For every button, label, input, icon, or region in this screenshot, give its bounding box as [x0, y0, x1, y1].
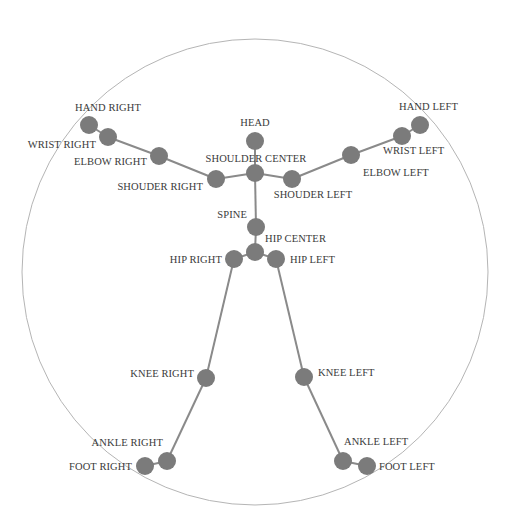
- joint-foot-right: [136, 457, 154, 475]
- joint-label-knee-left: KNEE LEFT: [318, 367, 375, 378]
- joint-spine: [247, 218, 265, 236]
- joint-elbow-right: [150, 147, 168, 165]
- joint-label-foot-left: FOOT LEFT: [379, 461, 435, 472]
- joint-knee-right: [197, 369, 215, 387]
- bone-knee-right-to-ankle-right: [167, 378, 206, 461]
- joint-label-elbow-right: ELBOW RIGHT: [74, 156, 147, 167]
- labels-layer: HEADSHOULDER CENTERSHOUDER RIGHTELBOW RI…: [28, 101, 459, 472]
- bone-hip-left-to-knee-left: [276, 259, 304, 377]
- joint-hip-center: [246, 243, 264, 261]
- joint-label-knee-right: KNEE RIGHT: [130, 368, 194, 379]
- joint-wrist-right: [99, 128, 117, 146]
- joint-shoulder-left: [283, 170, 301, 188]
- joint-label-hand-right: HAND RIGHT: [75, 102, 142, 113]
- joint-label-wrist-right: WRIST RIGHT: [28, 139, 97, 150]
- joint-label-hip-center: HIP CENTER: [265, 233, 326, 244]
- joint-label-hand-left: HAND LEFT: [399, 101, 458, 112]
- joint-shoulder-right: [207, 170, 225, 188]
- bone-knee-left-to-ankle-left: [304, 377, 343, 461]
- joint-head: [246, 132, 264, 150]
- joint-label-ankle-right: ANKLE RIGHT: [92, 437, 164, 448]
- bone-hip-right-to-knee-right: [206, 259, 234, 378]
- joint-ankle-left: [334, 452, 352, 470]
- joint-label-hip-left: HIP LEFT: [290, 254, 336, 265]
- joint-hip-right: [225, 250, 243, 268]
- joint-shoulder-center: [246, 164, 264, 182]
- joint-ankle-right: [158, 452, 176, 470]
- joint-label-ankle-left: ANKLE LEFT: [344, 436, 409, 447]
- joint-label-shoulder-center: SHOULDER CENTER: [206, 153, 307, 164]
- skeleton-diagram: HEADSHOULDER CENTERSHOUDER RIGHTELBOW RI…: [0, 0, 506, 530]
- joint-hip-left: [267, 250, 285, 268]
- joint-hand-right: [80, 116, 98, 134]
- joint-label-hip-right: HIP RIGHT: [170, 254, 223, 265]
- joint-label-head: HEAD: [240, 117, 270, 128]
- joint-elbow-left: [342, 146, 360, 164]
- joint-label-wrist-left: WRIST LEFT: [383, 145, 445, 156]
- joint-label-spine: SPINE: [217, 209, 247, 220]
- skeleton-canvas: HEADSHOULDER CENTERSHOUDER RIGHTELBOW RI…: [0, 0, 506, 530]
- joint-foot-left: [358, 457, 376, 475]
- joint-label-foot-right: FOOT RIGHT: [69, 461, 132, 472]
- joint-wrist-left: [393, 127, 411, 145]
- joint-hand-left: [411, 116, 429, 134]
- joint-label-shoulder-left: SHOUDER LEFT: [274, 189, 353, 200]
- joint-label-elbow-left: ELBOW LEFT: [363, 167, 429, 178]
- joint-label-shoulder-right: SHOUDER RIGHT: [117, 181, 203, 192]
- joint-knee-left: [295, 368, 313, 386]
